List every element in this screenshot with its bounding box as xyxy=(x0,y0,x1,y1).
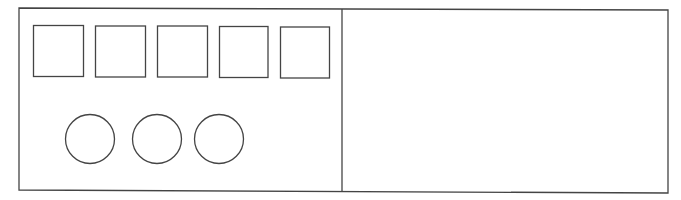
circle-slot-3 xyxy=(195,115,244,164)
diagram-canvas xyxy=(0,0,681,200)
square-slot-1 xyxy=(34,26,84,77)
square-slot-3 xyxy=(158,26,208,77)
square-slot-2 xyxy=(96,26,146,77)
square-slot-5 xyxy=(281,27,330,78)
square-slot-4 xyxy=(220,27,269,78)
circle-row xyxy=(66,115,244,164)
circle-slot-1 xyxy=(66,115,115,164)
square-row xyxy=(34,26,330,79)
circle-slot-2 xyxy=(133,115,182,164)
